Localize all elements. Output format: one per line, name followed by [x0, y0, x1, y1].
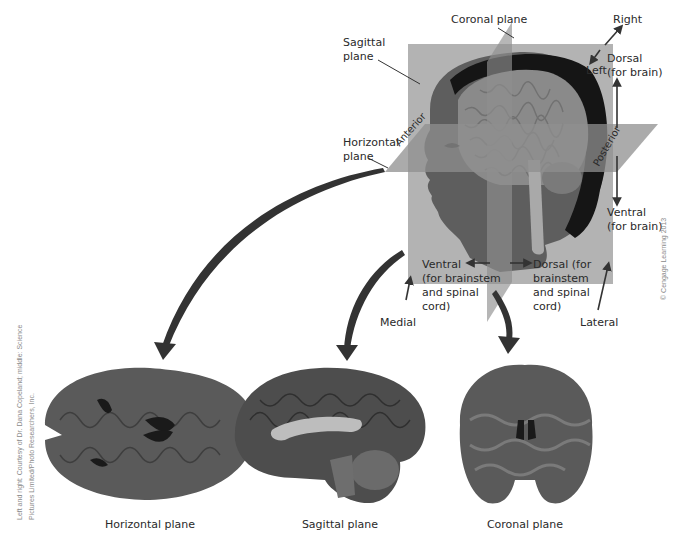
left-label: Left [586, 64, 607, 78]
photo-credit-line1: Left and right: Courtesy of Dr. Dana Cop… [16, 325, 23, 520]
coronal-plane-label: Coronal plane [451, 13, 527, 27]
right-arrow [605, 28, 620, 45]
horizontal-section-caption: Horizontal plane [75, 518, 225, 531]
horizontal-plane-label: Horizontal plane [343, 136, 399, 164]
ventral-brain-label: Ventral (for brain) [607, 206, 662, 234]
sagittal-section-caption: Sagittal plane [265, 518, 415, 531]
sagittal-section-arrow [344, 250, 405, 350]
horizontal-section-image [45, 368, 255, 500]
sagittal-section-image [235, 368, 426, 503]
photo-credit-line2: Pictures Limited/Photo Researchers, Inc. [28, 393, 35, 520]
sagittal-plane-label: Sagittal plane [343, 36, 385, 64]
copyright-notice: © Cengage Learning 2013 [660, 218, 667, 300]
right-label: Right [613, 13, 642, 27]
lateral-label: Lateral [580, 316, 618, 330]
medial-label: Medial [380, 316, 416, 330]
dorsal-brainstem-label: Dorsal (for brainstem and spinal cord) [533, 258, 591, 314]
coronal-section-caption: Coronal plane [450, 518, 600, 531]
dorsal-brain-label: Dorsal (for brain) [607, 52, 662, 80]
ventral-brainstem-label: Ventral (for brainstem and spinal cord) [422, 258, 501, 314]
coronal-section-image [460, 365, 593, 504]
